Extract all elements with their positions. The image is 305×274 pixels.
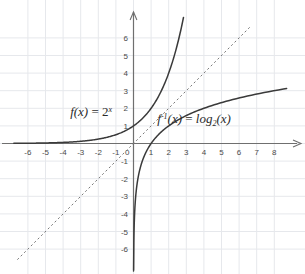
x-axis-tick-label: -1 — [112, 148, 120, 157]
y-axis-tick-label: 3 — [124, 87, 129, 96]
x-axis-tick-label: 1 — [149, 148, 154, 157]
y-axis-tick-label: 4 — [124, 69, 129, 78]
function-graph-figure: -6-5-4-3-2-112345678-6-5-4-3-2-11234560f… — [0, 0, 305, 274]
x-axis-tick-label: 8 — [272, 148, 277, 157]
y-axis-tick-label: -4 — [121, 210, 129, 219]
x-axis-tick-label: 6 — [237, 148, 242, 157]
y-axis-tick-label: -6 — [121, 245, 129, 254]
logarithm-function-label: f-1(x) = log2(x) — [157, 111, 231, 128]
y-axis-tick-label: 2 — [124, 104, 129, 113]
x-axis-tick-label: 7 — [254, 148, 259, 157]
x-axis-tick-label: -5 — [42, 148, 50, 157]
x-axis-tick-label: -4 — [60, 148, 68, 157]
y-axis-tick-label: 5 — [124, 52, 129, 61]
x-axis-tick-label: 2 — [166, 148, 171, 157]
cartesian-plot: -6-5-4-3-2-112345678-6-5-4-3-2-11234560f… — [0, 0, 305, 274]
x-axis-tick-label: -6 — [24, 148, 32, 157]
grid-lines — [0, 0, 305, 274]
y-axis-tick-label: -1 — [121, 157, 129, 166]
y-axis-tick-label: -2 — [121, 175, 129, 184]
exponential-function-label: f(x) = 2x — [70, 104, 112, 119]
x-axis-tick-label: -2 — [95, 148, 103, 157]
origin-tick-label: 0 — [125, 148, 130, 157]
y-axis-tick-label: -5 — [121, 228, 129, 237]
x-axis-tick-label: 3 — [184, 148, 189, 157]
x-axis-tick-label: 4 — [202, 148, 207, 157]
y-axis-tick-label: 6 — [124, 34, 129, 43]
y-axis-tick-label: -3 — [121, 192, 129, 201]
x-axis-tick-label: 5 — [219, 148, 224, 157]
x-axis-tick-label: -3 — [77, 148, 85, 157]
